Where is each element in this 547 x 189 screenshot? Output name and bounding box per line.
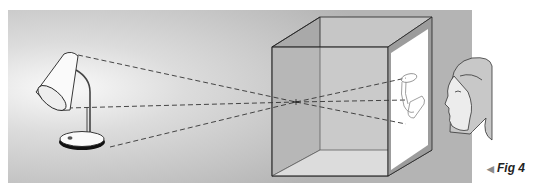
lamp-base — [60, 132, 104, 147]
camera-obscura-illustration — [0, 0, 547, 189]
box-front-face — [272, 47, 388, 176]
caption-arrow-icon: ◀ — [487, 164, 494, 174]
lamp-switch — [68, 136, 73, 140]
caption-label: Fig 4 — [497, 161, 525, 175]
figure-caption: ◀Fig 4 — [487, 161, 525, 175]
camera-obscura-box — [272, 17, 432, 176]
